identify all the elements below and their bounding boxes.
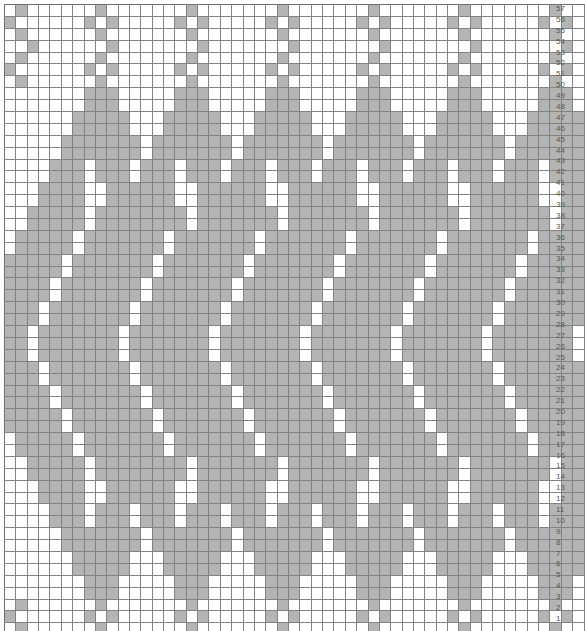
stitch-cell-empty[interactable]	[39, 302, 50, 314]
stitch-cell-filled[interactable]	[95, 76, 106, 88]
stitch-cell-empty[interactable]	[266, 623, 277, 631]
stitch-cell-filled[interactable]	[152, 516, 163, 528]
stitch-cell-empty[interactable]	[516, 52, 527, 64]
stitch-cell-empty[interactable]	[436, 587, 447, 599]
stitch-cell-filled[interactable]	[323, 266, 334, 278]
stitch-cell-filled[interactable]	[448, 540, 459, 552]
stitch-cell-empty[interactable]	[220, 88, 231, 100]
stitch-cell-empty[interactable]	[198, 76, 209, 88]
stitch-cell-filled[interactable]	[379, 504, 390, 516]
stitch-cell-empty[interactable]	[107, 76, 118, 88]
stitch-cell-empty[interactable]	[39, 611, 50, 623]
stitch-cell-filled[interactable]	[118, 207, 129, 219]
stitch-cell-empty[interactable]	[413, 40, 424, 52]
stitch-cell-filled[interactable]	[470, 326, 481, 338]
stitch-cell-filled[interactable]	[527, 504, 538, 516]
stitch-cell-empty[interactable]	[152, 611, 163, 623]
stitch-cell-filled[interactable]	[198, 611, 209, 623]
stitch-cell-filled[interactable]	[425, 444, 436, 456]
stitch-cell-filled[interactable]	[266, 207, 277, 219]
stitch-cell-filled[interactable]	[425, 290, 436, 302]
stitch-cell-filled[interactable]	[266, 242, 277, 254]
stitch-cell-empty[interactable]	[368, 195, 379, 207]
stitch-cell-filled[interactable]	[175, 528, 186, 540]
stitch-cell-filled[interactable]	[379, 563, 390, 575]
stitch-cell-filled[interactable]	[538, 64, 549, 76]
stitch-cell-filled[interactable]	[425, 326, 436, 338]
stitch-cell-filled[interactable]	[118, 254, 129, 266]
stitch-cell-empty[interactable]	[118, 349, 129, 361]
stitch-cell-filled[interactable]	[243, 337, 254, 349]
stitch-cell-filled[interactable]	[413, 444, 424, 456]
stitch-cell-filled[interactable]	[61, 528, 72, 540]
stitch-cell-empty[interactable]	[186, 219, 197, 231]
stitch-cell-filled[interactable]	[107, 242, 118, 254]
stitch-cell-filled[interactable]	[516, 326, 527, 338]
stitch-cell-empty[interactable]	[516, 64, 527, 76]
stitch-cell-filled[interactable]	[516, 444, 527, 456]
stitch-cell-filled[interactable]	[538, 349, 549, 361]
stitch-cell-filled[interactable]	[266, 64, 277, 76]
stitch-cell-filled[interactable]	[61, 361, 72, 373]
stitch-cell-filled[interactable]	[436, 147, 447, 159]
stitch-cell-filled[interactable]	[209, 397, 220, 409]
stitch-cell-empty[interactable]	[504, 40, 515, 52]
stitch-cell-filled[interactable]	[538, 337, 549, 349]
stitch-cell-empty[interactable]	[50, 135, 61, 147]
stitch-cell-filled[interactable]	[493, 278, 504, 290]
stitch-cell-filled[interactable]	[243, 492, 254, 504]
stitch-cell-empty[interactable]	[493, 171, 504, 183]
stitch-cell-filled[interactable]	[141, 373, 152, 385]
stitch-cell-empty[interactable]	[129, 314, 140, 326]
stitch-cell-filled[interactable]	[107, 492, 118, 504]
stitch-cell-filled[interactable]	[175, 337, 186, 349]
stitch-cell-filled[interactable]	[323, 409, 334, 421]
stitch-cell-empty[interactable]	[39, 171, 50, 183]
stitch-cell-empty[interactable]	[209, 5, 220, 17]
stitch-cell-filled[interactable]	[175, 290, 186, 302]
stitch-cell-filled[interactable]	[323, 456, 334, 468]
stitch-cell-filled[interactable]	[391, 373, 402, 385]
stitch-cell-filled[interactable]	[391, 254, 402, 266]
stitch-cell-filled[interactable]	[220, 456, 231, 468]
stitch-cell-empty[interactable]	[482, 326, 493, 338]
stitch-cell-filled[interactable]	[84, 290, 95, 302]
stitch-cell-filled[interactable]	[482, 230, 493, 242]
stitch-cell-empty[interactable]	[504, 385, 515, 397]
stitch-cell-empty[interactable]	[16, 207, 27, 219]
stitch-cell-empty[interactable]	[334, 112, 345, 124]
stitch-cell-filled[interactable]	[95, 219, 106, 231]
stitch-cell-empty[interactable]	[391, 623, 402, 631]
stitch-cell-empty[interactable]	[5, 599, 16, 611]
stitch-cell-filled[interactable]	[107, 147, 118, 159]
stitch-cell-empty[interactable]	[277, 480, 288, 492]
stitch-cell-filled[interactable]	[470, 207, 481, 219]
stitch-cell-filled[interactable]	[311, 326, 322, 338]
stitch-cell-empty[interactable]	[323, 16, 334, 28]
stitch-cell-filled[interactable]	[277, 159, 288, 171]
stitch-cell-filled[interactable]	[84, 314, 95, 326]
stitch-cell-empty[interactable]	[482, 64, 493, 76]
stitch-cell-filled[interactable]	[254, 540, 265, 552]
stitch-cell-filled[interactable]	[5, 314, 16, 326]
stitch-cell-empty[interactable]	[391, 349, 402, 361]
stitch-cell-filled[interactable]	[357, 611, 368, 623]
stitch-cell-filled[interactable]	[73, 551, 84, 563]
stitch-cell-empty[interactable]	[504, 623, 515, 631]
stitch-cell-empty[interactable]	[277, 40, 288, 52]
stitch-cell-filled[interactable]	[107, 64, 118, 76]
stitch-cell-filled[interactable]	[470, 290, 481, 302]
stitch-cell-filled[interactable]	[300, 385, 311, 397]
stitch-cell-empty[interactable]	[493, 373, 504, 385]
stitch-cell-filled[interactable]	[482, 278, 493, 290]
stitch-cell-filled[interactable]	[107, 456, 118, 468]
stitch-cell-empty[interactable]	[164, 5, 175, 17]
stitch-cell-filled[interactable]	[300, 516, 311, 528]
stitch-cell-empty[interactable]	[27, 492, 38, 504]
stitch-cell-filled[interactable]	[482, 563, 493, 575]
stitch-cell-filled[interactable]	[470, 135, 481, 147]
stitch-cell-filled[interactable]	[368, 433, 379, 445]
stitch-cell-empty[interactable]	[50, 611, 61, 623]
stitch-cell-empty[interactable]	[27, 88, 38, 100]
stitch-cell-empty[interactable]	[27, 504, 38, 516]
